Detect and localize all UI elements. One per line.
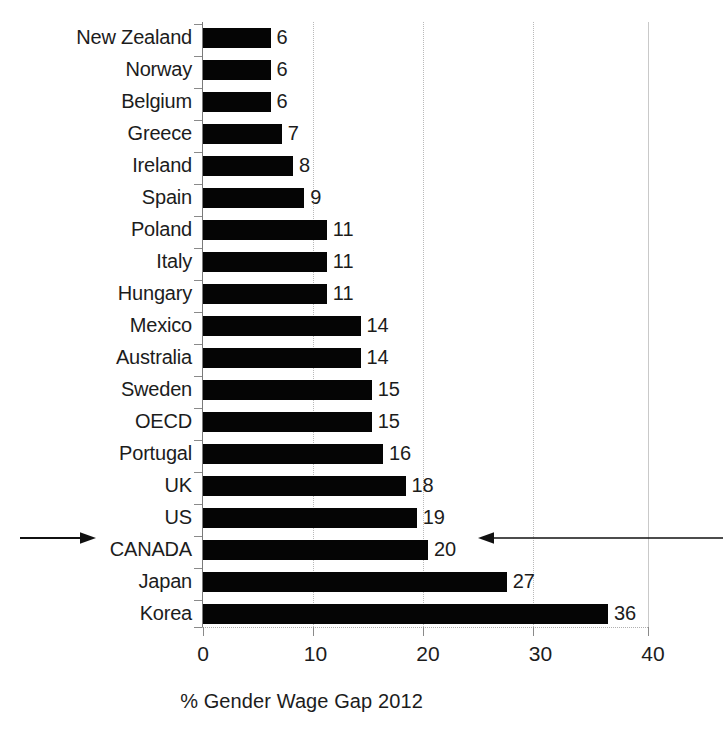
x-tick-label: 0 [173, 641, 233, 667]
bar-row: UK18 [0, 470, 723, 502]
category-label: Hungary [0, 280, 192, 306]
x-tick-label: 40 [623, 641, 683, 667]
bar-value-label: 6 [277, 24, 288, 50]
category-label: Sweden [0, 376, 192, 402]
category-label: Norway [0, 56, 192, 82]
bar [203, 476, 406, 496]
bar [203, 444, 383, 464]
bar [203, 124, 282, 144]
bar [203, 508, 417, 528]
category-label: Portugal [0, 440, 192, 466]
bar [203, 156, 293, 176]
canada-right-arrow-icon [478, 530, 723, 546]
category-label: UK [0, 472, 192, 498]
category-label: Belgium [0, 88, 192, 114]
bar-row: Greece7 [0, 118, 723, 150]
bar [203, 252, 327, 272]
plot-area: New Zealand6Norway6Belgium6Greece7Irelan… [0, 0, 723, 745]
bar-value-label: 14 [367, 312, 389, 338]
bar [203, 188, 304, 208]
bar-row: Belgium6 [0, 86, 723, 118]
bar-row: Sweden15 [0, 374, 723, 406]
bar-row: Australia14 [0, 342, 723, 374]
bar [203, 348, 361, 368]
bar-row: Mexico14 [0, 310, 723, 342]
bar-value-label: 11 [333, 216, 354, 242]
bar-value-label: 18 [412, 472, 434, 498]
bar-value-label: 19 [423, 504, 445, 530]
category-label: Poland [0, 216, 192, 242]
bar [203, 412, 372, 432]
category-label: New Zealand [0, 24, 192, 50]
bar-value-label: 8 [299, 152, 310, 178]
bar-value-label: 16 [389, 440, 411, 466]
category-label: OECD [0, 408, 192, 434]
category-label: Spain [0, 184, 192, 210]
bar-row: Japan27 [0, 566, 723, 598]
bar-value-label: 20 [434, 536, 456, 562]
bar-row: Norway6 [0, 54, 723, 86]
bar-value-label: 11 [333, 280, 354, 306]
bar-row: Ireland8 [0, 150, 723, 182]
bar [203, 380, 372, 400]
bar [203, 604, 608, 624]
bar-row: Portugal16 [0, 438, 723, 470]
bar-value-label: 6 [277, 56, 288, 82]
bar-row: OECD15 [0, 406, 723, 438]
category-label: US [0, 504, 192, 530]
bar-row: Spain9 [0, 182, 723, 214]
bar [203, 92, 271, 112]
bar [203, 316, 361, 336]
x-tick-label: 10 [286, 641, 346, 667]
x-tick-label: 30 [511, 641, 571, 667]
bar-chart: New Zealand6Norway6Belgium6Greece7Irelan… [0, 0, 723, 745]
bar-value-label: 7 [288, 120, 299, 146]
bar-row: Hungary11 [0, 278, 723, 310]
x-axis-title: % Gender Wage Gap 2012 [0, 688, 723, 714]
category-label: Australia [0, 344, 192, 370]
bar-row: Korea36 [0, 598, 723, 630]
bar-row: Poland11 [0, 214, 723, 246]
bar-value-label: 36 [614, 600, 636, 626]
category-label: Ireland [0, 152, 192, 178]
x-axis-title-text: % Gender Wage Gap 2012 [180, 688, 423, 714]
canada-left-arrow-icon [20, 530, 96, 546]
bar-value-label: 15 [378, 408, 400, 434]
category-label: Mexico [0, 312, 192, 338]
bar-value-label: 9 [310, 184, 321, 210]
x-tick-label: 20 [398, 641, 458, 667]
category-label: Korea [0, 600, 192, 626]
bar-value-label: 15 [378, 376, 400, 402]
bar-value-label: 27 [513, 568, 535, 594]
bar-row: Italy11 [0, 246, 723, 278]
bar [203, 572, 507, 592]
category-label: Japan [0, 568, 192, 594]
category-label: Greece [0, 120, 192, 146]
bar [203, 220, 327, 240]
bar-row: New Zealand6 [0, 22, 723, 54]
bar [203, 284, 327, 304]
bar-value-label: 11 [333, 248, 354, 274]
bar [203, 28, 271, 48]
category-label: Italy [0, 248, 192, 274]
bar-value-label: 14 [367, 344, 389, 370]
bar [203, 540, 428, 560]
bar-value-label: 6 [277, 88, 288, 114]
bar [203, 60, 271, 80]
